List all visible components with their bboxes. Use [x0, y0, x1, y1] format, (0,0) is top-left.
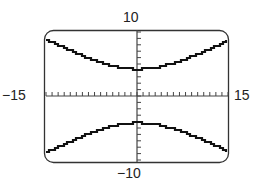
graph-plot	[0, 0, 256, 186]
